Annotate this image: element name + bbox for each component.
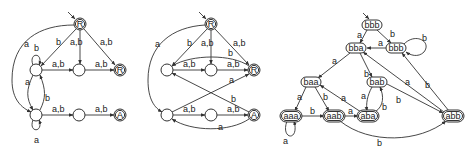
edge-label: a,b — [70, 37, 83, 47]
edge-label: a,b — [95, 104, 108, 114]
state-abb: abb — [442, 110, 464, 122]
automaton-2: a b a,b a,b b a,b a,b a b a,b a,b a — [148, 12, 260, 132]
edge-label: a — [357, 30, 362, 40]
state-aba: aba — [357, 110, 379, 122]
edge-label: a,b — [201, 38, 214, 48]
svg-text:bab: bab — [369, 77, 384, 87]
svg-text:R: R — [117, 65, 124, 75]
edge-label: a,b — [183, 104, 196, 114]
edge-label: a,b — [183, 59, 196, 69]
automaton-1: a b a,b a,b b a,b a,b a b a,b a,b a — [12, 12, 126, 145]
edge-label: b — [228, 48, 233, 58]
start-arrow — [199, 12, 206, 19]
svg-text:R: R — [77, 19, 84, 29]
state-right-bottom-a: A — [114, 109, 126, 121]
state-mid-bottom — [205, 109, 217, 121]
edge-label: a,b — [52, 59, 65, 69]
edge-label: a,b — [227, 59, 240, 69]
state-start-r: R — [74, 18, 86, 30]
svg-text:bbb: bbb — [388, 43, 403, 53]
state-baa: baa — [301, 77, 321, 87]
svg-text:aba: aba — [360, 111, 375, 121]
edge-label: a,b — [52, 104, 65, 114]
edge-label: a — [218, 122, 223, 132]
edge-aab-abb — [340, 121, 446, 138]
edge-lb-lt — [40, 75, 45, 110]
edge-label: b — [187, 38, 192, 48]
edge-label: a — [348, 106, 353, 116]
edge-label: a — [341, 93, 346, 103]
edge-label: a — [332, 56, 337, 66]
state-left-top — [30, 64, 42, 76]
state-bab: bab — [367, 77, 387, 87]
state-left-top — [161, 64, 173, 76]
start-arrow — [363, 13, 369, 19]
edge-label: b — [377, 138, 382, 148]
automata-figure: a b a,b a,b b a,b a,b a b a,b a,b a — [0, 0, 472, 156]
state-bbb: bbb — [386, 43, 406, 53]
edge-label: b — [310, 106, 315, 116]
state-aaa: aaa — [280, 110, 302, 122]
svg-text:aaa: aaa — [283, 111, 298, 121]
edge-label: a,b — [95, 59, 108, 69]
edge-label: a — [361, 91, 366, 101]
state-start-r: R — [205, 18, 217, 30]
state-right-top-r: R — [114, 64, 126, 76]
edge-label: a,b — [227, 104, 240, 114]
edge-s-lb — [12, 25, 74, 112]
svg-text:A: A — [251, 110, 257, 120]
edge-label: a — [283, 136, 288, 146]
edge-label: b — [425, 80, 430, 90]
state-right-top-r: R — [248, 64, 260, 76]
edge-label: b — [34, 43, 39, 53]
svg-text:baa: baa — [303, 77, 318, 87]
edge-label: a — [378, 38, 383, 48]
state-left-bottom — [161, 109, 173, 121]
svg-text:A: A — [117, 110, 123, 120]
edge-label: a — [25, 77, 30, 87]
edge-label: a — [34, 135, 39, 145]
state-bba: bba — [346, 43, 366, 53]
edge-label: a — [155, 39, 160, 49]
state-aab: aab — [323, 110, 345, 122]
state-mid-bottom — [73, 109, 85, 121]
edge-label: b — [323, 92, 328, 102]
automaton-3: a b a b a b a b b a b a a — [280, 13, 464, 148]
start-arrow — [68, 12, 75, 19]
svg-text:R: R — [208, 19, 215, 29]
edge-label: a,b — [100, 37, 113, 47]
edge-label: a,b — [233, 38, 246, 48]
edge-label: b — [364, 69, 369, 79]
edge-label: a — [229, 75, 234, 85]
state-right-bottom-a: A — [248, 109, 260, 121]
state-mid-top — [205, 64, 217, 76]
state-bbb-start: bbb — [362, 20, 382, 30]
svg-text:abb: abb — [445, 111, 460, 121]
edge-label: a — [297, 92, 302, 102]
edge-aaa-loop — [285, 121, 295, 136]
svg-text:R: R — [251, 65, 258, 75]
edge-bab-aba — [367, 87, 372, 111]
svg-text:bba: bba — [348, 43, 363, 53]
edge-label: b — [231, 94, 236, 104]
svg-text:bbb: bbb — [364, 20, 379, 30]
edge-label: b — [56, 37, 61, 47]
state-mid-top — [73, 64, 85, 76]
edge-label: b — [45, 93, 50, 103]
svg-text:aab: aab — [326, 111, 341, 121]
edge-label: a — [24, 39, 29, 49]
edge-label: b — [382, 102, 387, 112]
state-left-bottom — [30, 109, 42, 121]
edge-label: b — [422, 33, 427, 43]
edge-label: b — [390, 29, 395, 39]
edge-label: b — [396, 95, 401, 105]
edge-label: a — [405, 77, 410, 87]
